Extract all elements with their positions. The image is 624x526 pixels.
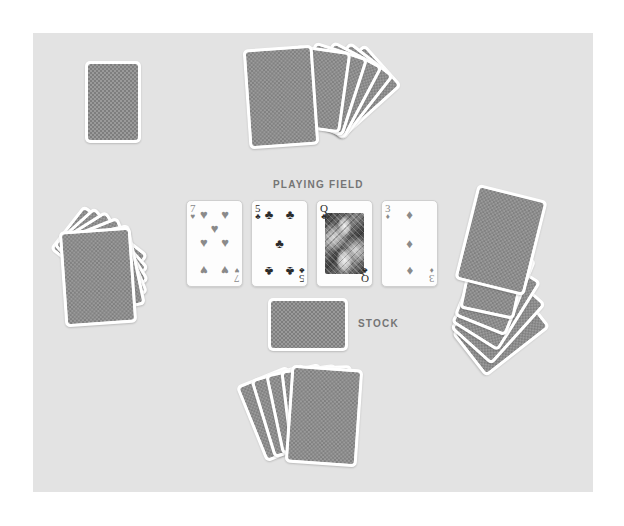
hearts-icon: ♥	[200, 236, 208, 249]
diamonds-icon: ♦	[406, 236, 413, 249]
hearts-icon: ♥	[190, 213, 195, 221]
card-back-pattern	[62, 230, 134, 324]
hearts-icon: ♥	[200, 208, 208, 221]
playing-field-card[interactable]: 7 ♥ ♥ ♥ ♥ ♥ ♥ ♥ ♥ 7 ♥	[186, 200, 243, 287]
diamonds-icon: ♦	[386, 213, 390, 221]
clubs-icon: ♣	[321, 213, 326, 221]
card-table-surface: PLAYING FIELD 7 ♥ ♥ ♥ ♥ ♥ ♥ ♥ ♥ 7 ♥	[33, 33, 593, 492]
playing-field-card[interactable]: 5 ♣ ♣ ♣ ♣ ♣ ♣ 5 ♣	[251, 200, 308, 287]
playing-field-card[interactable]: 3 ♦ ♦ ♦ ♦ 3 ♦	[381, 200, 438, 287]
clubs-icon: ♣	[265, 208, 274, 221]
playing-field-label: PLAYING FIELD	[273, 179, 364, 190]
playing-field-card[interactable]: Q ♣ Q ♣	[316, 200, 373, 287]
hearts-icon: ♥	[221, 263, 229, 276]
card-corner-index: 5 ♣	[299, 266, 305, 284]
clubs-icon: ♣	[265, 265, 274, 278]
stock-label: STOCK	[358, 318, 399, 329]
court-card-artwork	[325, 213, 364, 274]
card-corner-index: Q ♣	[320, 203, 328, 221]
card-back-pattern	[88, 64, 138, 140]
card-corner-index: 7 ♥	[234, 266, 240, 284]
card-back[interactable]	[285, 365, 364, 468]
hearts-icon: ♥	[221, 208, 229, 221]
card-corner-index: 3 ♦	[385, 203, 391, 221]
clubs-icon: ♣	[255, 213, 260, 221]
clubs-icon: ♣	[275, 236, 284, 249]
card-pip-area: ♦ ♦ ♦	[393, 207, 426, 280]
clubs-icon: ♣	[362, 266, 367, 274]
clubs-icon: ♣	[299, 266, 304, 274]
card-back-pattern	[288, 368, 360, 464]
diamonds-icon: ♦	[429, 266, 433, 274]
card-back[interactable]	[243, 45, 320, 150]
diamonds-icon: ♦	[406, 265, 413, 278]
card-corner-index: 5 ♣	[255, 203, 261, 221]
card-pip-area: ♣ ♣ ♣ ♣ ♣	[263, 207, 296, 280]
hearts-icon: ♥	[200, 263, 208, 276]
card-corner-index: Q ♣	[361, 266, 369, 284]
hearts-icon: ♥	[221, 236, 229, 249]
card-corner-index: 7 ♥	[190, 203, 196, 221]
stock-pile[interactable]	[268, 298, 348, 351]
hearts-icon: ♥	[211, 222, 219, 235]
card-pip-area: ♥ ♥ ♥ ♥ ♥ ♥ ♥	[198, 207, 231, 280]
diamonds-icon: ♦	[406, 208, 413, 221]
card-back-pattern	[271, 301, 345, 348]
card-back[interactable]	[85, 61, 141, 143]
card-back[interactable]	[59, 227, 138, 328]
card-back-pattern	[246, 48, 316, 146]
card-corner-index: 3 ♦	[429, 266, 435, 284]
hearts-icon: ♥	[234, 266, 239, 274]
clubs-icon: ♣	[286, 208, 295, 221]
clubs-icon: ♣	[286, 265, 295, 278]
